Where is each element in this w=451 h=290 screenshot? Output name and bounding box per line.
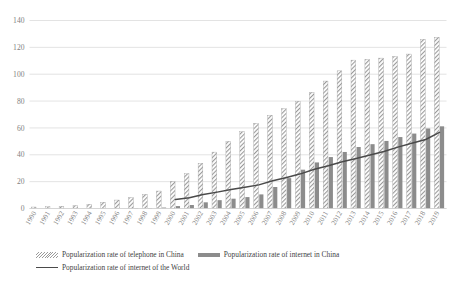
- bar-telephone-china: [115, 200, 120, 208]
- bar-telephone-china: [421, 39, 426, 208]
- x-axis-tick-label: 2001: [177, 210, 191, 227]
- bar-internet-china: [218, 200, 222, 208]
- y-axis-tick-label: 140: [13, 16, 25, 25]
- x-axis-tick-label: 2000: [163, 210, 177, 227]
- x-axis-tick-label: 2012: [330, 210, 344, 227]
- legend-row-1: Popularization rate of telephone in Chin…: [36, 248, 444, 261]
- legend-item-internet-china[interactable]: Popularization rate of internet in China: [198, 251, 340, 258]
- x-axis-tick-label: 1995: [94, 210, 108, 227]
- chart-container: 0204060801001201401990199119921993199419…: [0, 0, 451, 290]
- x-axis-tick-label: 1998: [135, 210, 149, 227]
- solid-bar-swatch-icon: [198, 253, 220, 257]
- bar-telephone-china: [73, 206, 78, 209]
- bar-telephone-china: [198, 163, 203, 208]
- bar-telephone-china: [184, 174, 189, 209]
- bar-telephone-china: [212, 152, 217, 208]
- legend-label-telephone-china: Popularization rate of telephone in Chin…: [62, 251, 184, 258]
- bar-telephone-china: [254, 123, 259, 208]
- legend-item-internet-world[interactable]: Popularization rate of internet of the W…: [36, 264, 189, 271]
- x-axis-tick-label: 2007: [260, 210, 274, 227]
- bar-internet-china: [245, 197, 249, 208]
- y-axis-tick-label: 40: [17, 150, 25, 159]
- bar-telephone-china: [365, 59, 370, 208]
- bar-telephone-china: [379, 58, 384, 208]
- bar-internet-china: [231, 199, 235, 209]
- bar-telephone-china: [295, 101, 300, 208]
- bar-internet-china: [259, 194, 263, 208]
- bar-telephone-china: [407, 54, 412, 208]
- bar-telephone-china: [143, 194, 148, 208]
- bar-internet-china: [301, 170, 305, 209]
- y-axis-tick-label: 60: [17, 124, 25, 133]
- bar-telephone-china: [309, 92, 314, 208]
- x-axis-tick-label: 2008: [274, 210, 288, 227]
- x-axis-tick-label: 1994: [80, 210, 94, 227]
- bar-telephone-china: [170, 182, 175, 209]
- bar-internet-china: [190, 205, 194, 208]
- bar-internet-china: [273, 187, 277, 208]
- y-axis-tick-label: 120: [13, 43, 25, 52]
- chart-legend: Popularization rate of telephone in Chin…: [36, 248, 444, 274]
- bar-telephone-china: [351, 60, 356, 208]
- x-axis-tick-label: 2004: [219, 210, 233, 227]
- bar-telephone-china: [323, 81, 328, 208]
- x-axis-tick-label: 2019: [427, 210, 441, 227]
- x-axis-tick-label: 2013: [344, 210, 358, 227]
- bar-telephone-china: [101, 202, 106, 208]
- x-axis-tick-label: 2009: [288, 210, 302, 227]
- legend-row-2: Popularization rate of internet of the W…: [36, 261, 444, 274]
- bar-telephone-china: [282, 109, 287, 209]
- chart-plot-area: 0204060801001201401990199119921993199419…: [0, 0, 451, 290]
- bar-telephone-china: [129, 198, 134, 209]
- x-axis-tick-label: 2011: [316, 210, 330, 227]
- x-axis-tick-label: 2015: [372, 210, 386, 227]
- y-axis-tick-label: 100: [13, 70, 25, 79]
- bar-internet-china: [412, 134, 416, 209]
- legend-label-internet-world: Popularization rate of internet of the W…: [62, 264, 189, 271]
- bar-internet-china: [398, 137, 402, 208]
- x-axis-tick-label: 2018: [413, 210, 427, 227]
- bar-telephone-china: [434, 37, 439, 208]
- bar-internet-china: [287, 178, 291, 208]
- bar-internet-china: [357, 147, 361, 209]
- bar-internet-china: [204, 202, 208, 208]
- line-swatch-icon: [36, 264, 58, 271]
- x-axis-tick-label: 1990: [24, 210, 38, 227]
- x-axis-tick-label: 1996: [107, 210, 121, 227]
- bar-internet-china: [426, 128, 430, 208]
- bar-telephone-china: [268, 115, 273, 208]
- x-axis-tick-label: 2002: [191, 210, 205, 227]
- x-axis-tick-label: 2003: [205, 210, 219, 227]
- x-axis-tick-label: 1993: [66, 210, 80, 227]
- y-axis-tick-label: 80: [17, 97, 25, 106]
- bar-internet-china: [440, 126, 444, 208]
- x-axis-tick-label: 2010: [302, 210, 316, 227]
- bar-telephone-china: [226, 141, 231, 208]
- hatched-bar-swatch-icon: [36, 252, 58, 258]
- y-axis-tick-label: 0: [21, 204, 25, 213]
- legend-label-internet-china: Popularization rate of internet in China: [224, 251, 340, 258]
- x-axis-tick-label: 2017: [399, 210, 413, 227]
- x-axis-tick-label: 2006: [246, 210, 260, 227]
- legend-item-telephone-china[interactable]: Popularization rate of telephone in Chin…: [36, 251, 184, 258]
- bar-telephone-china: [337, 71, 342, 209]
- bar-telephone-china: [156, 191, 161, 208]
- x-axis-tick-label: 2016: [385, 210, 399, 227]
- x-axis-tick-label: 2005: [233, 210, 247, 227]
- bar-telephone-china: [87, 204, 92, 208]
- x-axis-tick-label: 2014: [358, 210, 372, 227]
- bar-telephone-china: [240, 132, 245, 209]
- y-axis-tick-label: 20: [17, 177, 25, 186]
- x-axis-tick-label: 1992: [52, 210, 66, 227]
- x-axis-tick-label: 1999: [149, 210, 163, 227]
- bar-telephone-china: [393, 56, 398, 208]
- x-axis-tick-label: 1997: [121, 210, 135, 227]
- x-axis-tick-label: 1991: [38, 210, 52, 227]
